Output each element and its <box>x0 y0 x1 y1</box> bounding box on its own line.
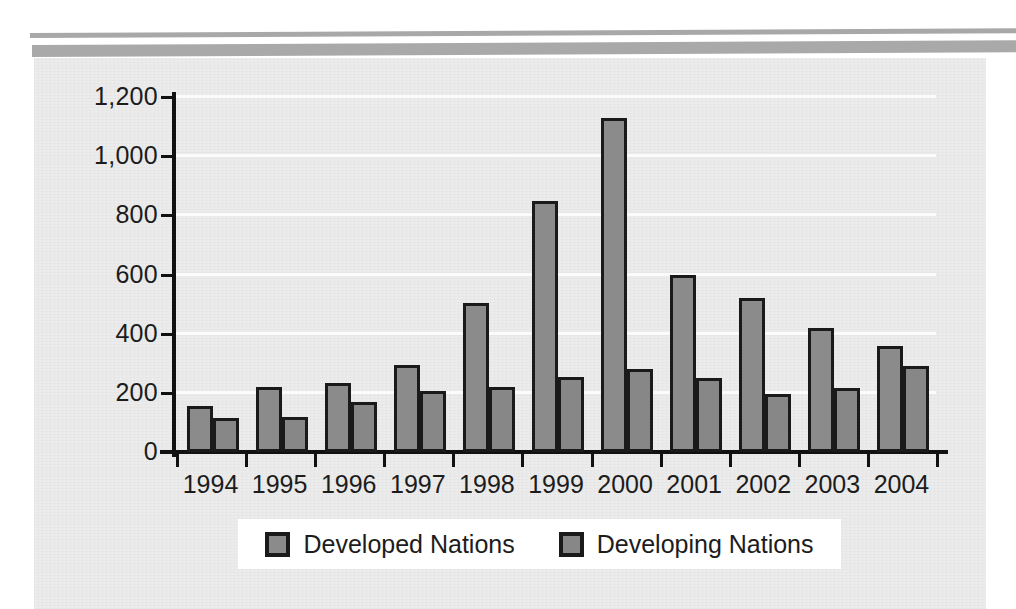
bar-2001-developing <box>696 378 722 452</box>
y-tick-label: 400 <box>86 321 158 346</box>
x-tick <box>867 454 870 467</box>
x-tick <box>314 454 317 467</box>
y-tick-label-wrap: 200 <box>78 393 158 394</box>
gridline <box>176 154 936 157</box>
y-tick-label-wrap: 800 <box>78 215 158 216</box>
x-label-2003: 2003 <box>798 472 867 497</box>
x-label-1997: 1997 <box>383 472 452 497</box>
legend-entry-developing-nations[interactable]: Developing Nations <box>559 532 814 557</box>
x-tick <box>452 454 455 467</box>
x-label-2004: 2004 <box>867 472 936 497</box>
x-label-2002: 2002 <box>729 472 798 497</box>
bar-1998-developed <box>463 303 489 452</box>
x-label-1998: 1998 <box>452 472 521 497</box>
bar-2004-developed <box>877 346 903 452</box>
y-tick-label-wrap: 0 <box>78 452 158 453</box>
y-tick-label: 0 <box>86 439 158 464</box>
bar-1994-developing <box>213 418 239 452</box>
bar-1995-developing <box>282 417 308 452</box>
bar-1995-developed <box>256 387 282 452</box>
bar-1994-developed <box>187 406 213 452</box>
y-tick <box>161 274 173 277</box>
gridline <box>176 95 936 98</box>
y-tick-label: 200 <box>86 380 158 405</box>
x-label-1999: 1999 <box>521 472 590 497</box>
bar-2002-developing <box>765 394 791 452</box>
y-tick <box>161 155 173 158</box>
x-tick <box>591 454 594 467</box>
x-tick <box>383 454 386 467</box>
bar-1999-developed <box>532 201 558 452</box>
legend-swatch-icon <box>559 532 584 557</box>
x-tick <box>660 454 663 467</box>
x-tick <box>729 454 732 467</box>
x-label-2000: 2000 <box>591 472 660 497</box>
x-label-1995: 1995 <box>245 472 314 497</box>
bar-2001-developed <box>670 275 696 453</box>
bar-1997-developing <box>420 391 446 452</box>
x-label-2001: 2001 <box>660 472 729 497</box>
y-tick-label: 1,200 <box>86 84 158 109</box>
y-tick-label: 1,000 <box>86 143 158 168</box>
legend-entry-developed-nations[interactable]: Developed Nations <box>265 532 514 557</box>
bar-1996-developed <box>325 383 351 452</box>
bar-2002-developed <box>739 298 765 452</box>
x-tick <box>798 454 801 467</box>
x-tick <box>245 454 248 467</box>
x-tick <box>176 454 179 467</box>
bar-2004-developing <box>903 366 929 452</box>
y-tick <box>161 96 173 99</box>
bar-chart: 02004006008001,0001,200 1994199519961997… <box>0 0 1016 609</box>
x-label-1996: 1996 <box>314 472 383 497</box>
y-tick <box>161 392 173 395</box>
y-tick-label-wrap: 400 <box>78 334 158 335</box>
scanned-page: 02004006008001,0001,200 1994199519961997… <box>0 0 1016 609</box>
legend-label: Developing Nations <box>597 532 814 557</box>
legend-swatch-icon <box>265 532 290 557</box>
y-tick-label: 800 <box>86 202 158 227</box>
bar-1996-developing <box>351 402 377 452</box>
plot-area <box>176 97 936 452</box>
bar-2000-developed <box>601 118 627 452</box>
legend-label: Developed Nations <box>303 532 514 557</box>
bar-2003-developed <box>808 328 834 452</box>
bar-2003-developing <box>834 388 860 452</box>
y-tick-label-wrap: 1,200 <box>78 97 158 98</box>
bar-1998-developing <box>489 387 515 452</box>
y-tick-label-wrap: 1,000 <box>78 156 158 157</box>
y-tick <box>161 214 173 217</box>
bar-1999-developing <box>558 377 584 452</box>
x-tick <box>936 454 939 467</box>
y-tick <box>161 333 173 336</box>
chart-legend: Developed NationsDeveloping Nations <box>238 519 841 569</box>
bar-2000-developing <box>627 369 653 452</box>
y-tick <box>161 451 173 454</box>
x-label-1994: 1994 <box>176 472 245 497</box>
y-tick-label: 600 <box>86 262 158 287</box>
y-tick-label-wrap: 600 <box>78 275 158 276</box>
x-tick <box>521 454 524 467</box>
bar-1997-developed <box>394 365 420 452</box>
